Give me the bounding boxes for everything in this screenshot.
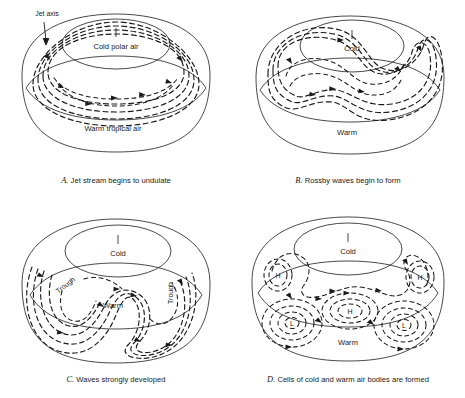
- label-trough-right: Trough: [167, 282, 175, 304]
- panel-d-caption: D. Cells of cold and warm air bodies are…: [232, 375, 464, 384]
- panel-b-diagram: Cold Warm: [232, 0, 464, 199]
- rossby-wave-band: [268, 28, 442, 121]
- panel-d-caption-text: Cells of cold and warm air bodies are fo…: [277, 375, 429, 384]
- label-cold: Cold: [344, 44, 360, 53]
- label-cold: Cold polar air: [93, 42, 139, 51]
- panel-c-caption: C. Waves strongly developed: [0, 375, 232, 384]
- panel-b-caption: B. Rossby waves begin to form: [232, 176, 464, 185]
- dome-outline: [22, 219, 210, 363]
- label-jet-axis: Jet axis: [35, 10, 59, 17]
- panel-d-diagram: Cold Warm H H H L L: [232, 199, 464, 398]
- panel-a-inline-labels: Cold polar air Warm tropical air Jet axi…: [35, 10, 142, 133]
- jet-stream-index-cycle-figure: Cold polar air Warm tropical air Jet axi…: [0, 0, 465, 398]
- panel-c-caption-letter: C.: [66, 375, 74, 384]
- panel-a-caption-text: Jet stream begins to undulate: [71, 176, 171, 185]
- panel-b-caption-letter: B.: [295, 176, 302, 185]
- panel-d-caption-letter: D.: [267, 375, 275, 384]
- label-pressure-h-center: H: [347, 308, 352, 315]
- label-warm: Warm tropical air: [84, 124, 142, 133]
- panel-c-inline-labels: Cold Warm Trough Trough: [55, 249, 175, 310]
- panel-b-caption-text: Rossby waves begin to form: [305, 176, 401, 185]
- panel-b: Cold Warm B. Rossby waves begin to form: [232, 0, 464, 199]
- panel-a-diagram: Cold polar air Warm tropical air Jet axi…: [0, 0, 232, 199]
- label-trough-left: Trough: [55, 275, 77, 295]
- jet-axis-arrow: [43, 22, 49, 45]
- panel-d: Cold Warm H H H L L D. Cells of cold and…: [232, 199, 464, 398]
- label-warm: Warm: [337, 128, 357, 137]
- panel-c-diagram: Cold Warm Trough Trough: [0, 199, 232, 398]
- label-pressure-l-lower-right: L: [402, 322, 406, 329]
- panel-a: Cold polar air Warm tropical air Jet axi…: [0, 0, 232, 199]
- label-warm: Warm: [103, 301, 123, 310]
- rossby-wave-inner-lines: [286, 58, 404, 95]
- mid-latitude-ellipse: [26, 56, 206, 120]
- panel-c: Cold Warm Trough Trough C. Waves strongl…: [0, 199, 232, 398]
- panel-a-caption-letter: A.: [61, 176, 68, 185]
- mid-latitude-ellipse: [30, 263, 202, 329]
- label-cold: Cold: [110, 249, 126, 258]
- label-cold: Cold: [340, 247, 356, 256]
- jet-stream-band: [33, 22, 199, 126]
- panel-d-inline-labels: Cold Warm H H H L L: [275, 247, 422, 347]
- label-warm: Warm: [338, 338, 358, 347]
- mid-latitude-ellipse: [258, 261, 438, 327]
- panel-a-caption: A. Jet stream begins to undulate: [0, 176, 232, 185]
- label-pressure-h-upper-right: H: [417, 274, 422, 281]
- jet-stream-inner-lines: [54, 78, 178, 106]
- jet-direction-arrowheads: [43, 54, 183, 107]
- label-pressure-l-lower-left: L: [290, 320, 294, 327]
- panel-c-caption-text: Waves strongly developed: [76, 375, 165, 384]
- label-pressure-h-upper-left: H: [275, 272, 280, 279]
